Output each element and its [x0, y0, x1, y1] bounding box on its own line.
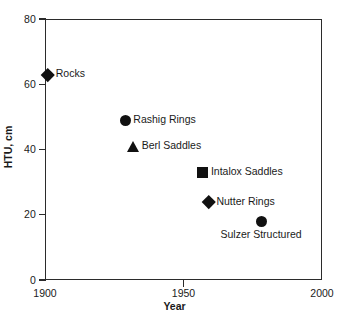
data-point-label: Rocks: [56, 68, 85, 79]
square-marker-icon: [197, 167, 208, 178]
x-tick-label: 2000: [310, 288, 333, 299]
x-tick-label: 1950: [172, 288, 195, 299]
chart-figure: 020406080 190019502000 RocksRashig Rings…: [0, 0, 349, 323]
y-tick-mark: [39, 149, 46, 150]
y-tick-label: 80: [24, 14, 36, 25]
circle-marker-icon: [256, 216, 267, 227]
data-point-label: Rashig Rings: [133, 114, 195, 125]
y-tick-mark: [39, 279, 46, 280]
circle-marker-icon: [120, 115, 131, 126]
x-tick-mark: [183, 280, 184, 287]
y-tick-mark: [39, 84, 46, 85]
y-tick-label: 0: [30, 275, 36, 286]
y-tick-label: 40: [24, 144, 36, 155]
y-tick-label: 20: [24, 209, 36, 220]
plot-frame-top: [46, 19, 322, 20]
data-point-label: Intalox Saddles: [211, 166, 283, 177]
y-tick-label: 60: [24, 79, 36, 90]
data-point-label: Sulzer Structured: [220, 229, 301, 240]
y-axis-title: HTU, cm: [2, 112, 14, 182]
y-tick-mark: [39, 18, 46, 19]
plot-frame-right: [321, 19, 322, 280]
x-tick-label: 1900: [33, 288, 56, 299]
x-axis-title: Year: [0, 300, 349, 312]
data-point-label: Nutter Rings: [216, 196, 274, 207]
data-point-label: Berl Saddles: [142, 140, 202, 151]
y-tick-mark: [39, 214, 46, 215]
triangle-marker-icon: [127, 141, 139, 152]
